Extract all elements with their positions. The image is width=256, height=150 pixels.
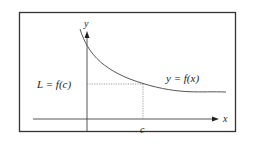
diagram: y x c L = f(c) y = f(x) [0, 0, 256, 150]
diagram-frame [20, 13, 236, 132]
x-axis-arrow-icon [212, 117, 219, 122]
L-value-label: L = f(c) [36, 78, 71, 91]
x-axis-label: x [222, 113, 228, 124]
curve-f [80, 29, 226, 92]
y-axis-arrow-icon [85, 31, 90, 38]
y-axis-label: y [83, 18, 89, 29]
c-tick-label: c [140, 124, 145, 135]
curve-label: y = f(x) [165, 72, 199, 85]
